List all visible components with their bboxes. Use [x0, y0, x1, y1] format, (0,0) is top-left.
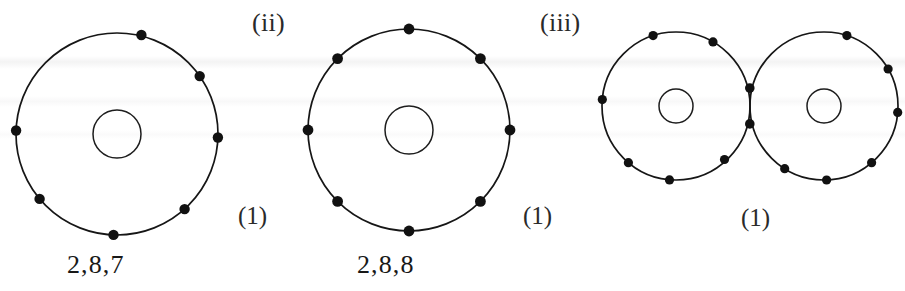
outer-shell-circle-a — [16, 33, 218, 235]
mark-label-b: (1) — [523, 203, 552, 228]
electron-dot — [624, 158, 633, 167]
electron-group-c-left — [598, 31, 729, 184]
electron-dot-shared — [745, 83, 755, 93]
electron-dot — [213, 132, 223, 142]
electron-dot — [893, 108, 902, 117]
electron-dot — [108, 230, 118, 240]
electron-dot — [475, 196, 486, 207]
electron-shell-diagram-svg — [0, 0, 905, 291]
diagram-panel-c — [598, 31, 903, 185]
electron-dot — [505, 125, 516, 136]
mark-label-c: (1) — [741, 205, 770, 230]
electron-dot — [404, 226, 415, 237]
electron-dot — [404, 24, 415, 35]
electron-dot — [136, 30, 146, 40]
outer-shell-circle-c-right — [750, 32, 898, 180]
electron-group-b — [303, 24, 516, 237]
electron-configuration-a: 2,8,7 — [67, 252, 125, 278]
electron-dot — [822, 175, 831, 184]
electron-dot — [195, 71, 205, 81]
electron-dot — [11, 125, 21, 135]
electron-dot-shared — [745, 119, 755, 129]
nucleus-circle-c-right — [807, 89, 841, 123]
electron-dot — [475, 53, 486, 64]
nucleus-circle-a — [93, 110, 141, 158]
electron-dot — [649, 31, 658, 40]
electron-dot — [332, 196, 343, 207]
diagram-panel-b — [303, 24, 516, 237]
electron-group-a — [11, 30, 223, 240]
electron-dot — [34, 194, 44, 204]
electron-dot — [303, 125, 314, 136]
nucleus-circle-c-left — [659, 89, 693, 123]
panel-label-roman-ii: (ii) — [252, 10, 285, 36]
nucleus-circle-b — [385, 106, 433, 154]
electron-dot — [665, 175, 674, 184]
electron-dot — [179, 204, 189, 214]
diagram-panel-a — [11, 30, 223, 240]
mark-label-a: (1) — [238, 203, 267, 228]
electron-dot — [884, 64, 893, 73]
electron-configuration-b: 2,8,8 — [357, 252, 415, 278]
figure-canvas: (ii) (iii) (1) (1) (1) 2,8,7 2,8,8 — [0, 0, 905, 291]
electron-dot — [720, 155, 729, 164]
electron-dot — [332, 53, 343, 64]
electron-dot — [867, 158, 876, 167]
panel-label-roman-iii: (iii) — [540, 10, 581, 36]
electron-dot — [780, 164, 789, 173]
electron-dot — [842, 31, 851, 40]
electron-dot — [598, 95, 607, 104]
electron-dot — [708, 37, 717, 46]
